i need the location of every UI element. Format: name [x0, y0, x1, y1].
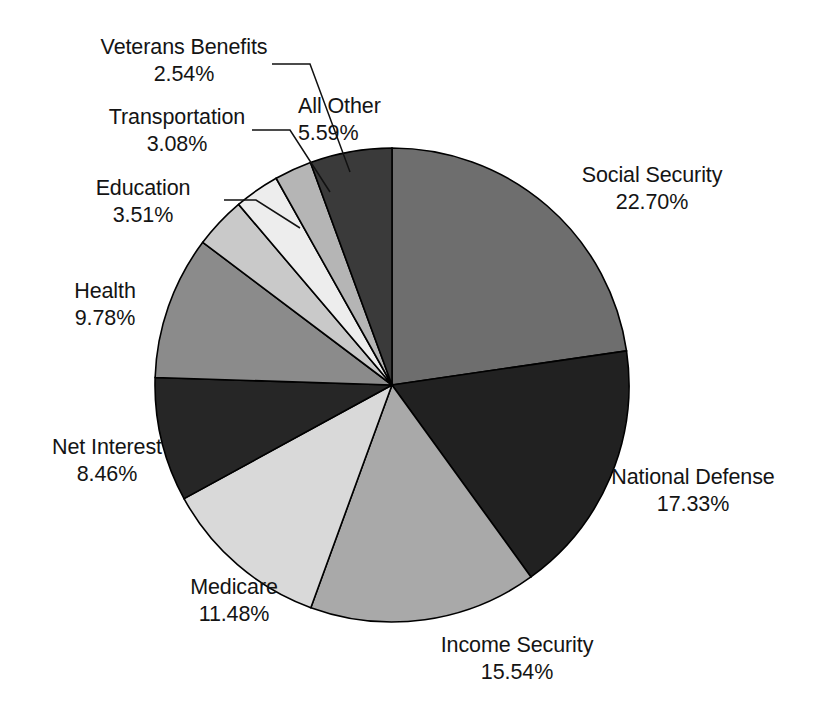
pie-label-percent: 9.78%	[22, 305, 188, 332]
pie-label-social-security: Social Security 22.70%	[540, 162, 764, 216]
pie-label-percent: 2.54%	[84, 61, 284, 88]
pie-label-health: Health 9.78%	[22, 278, 188, 332]
pie-label-name: Net Interest	[16, 434, 198, 461]
pie-label-education: Education 3.51%	[42, 175, 244, 229]
pie-label-percent: 15.54%	[402, 659, 632, 686]
pie-label-veterans-benefits: Veterans Benefits 2.54%	[84, 34, 284, 88]
pie-label-national-defense: National Defense 17.33%	[578, 464, 808, 518]
pie-label-name: Education	[42, 175, 244, 202]
pie-label-name: Transportation	[70, 104, 284, 131]
pie-label-medicare: Medicare 11.48%	[148, 574, 320, 628]
pie-label-percent: 17.33%	[578, 491, 808, 518]
pie-label-net-interest: Net Interest 8.46%	[16, 434, 198, 488]
pie-label-name: Veterans Benefits	[84, 34, 284, 61]
pie-label-percent: 11.48%	[148, 601, 320, 628]
pie-label-name: Health	[22, 278, 188, 305]
pie-label-percent: 22.70%	[540, 189, 764, 216]
pie-label-income-security: Income Security 15.54%	[402, 632, 632, 686]
pie-label-name: Medicare	[148, 574, 320, 601]
pie-chart-figure: Federal Budget Outlays by Function Veter…	[0, 0, 820, 724]
pie-label-percent: 5.59%	[298, 120, 454, 147]
pie-label-name: All Other	[298, 93, 454, 120]
pie-label-percent: 3.08%	[70, 131, 284, 158]
pie-label-name: National Defense	[578, 464, 808, 491]
pie-label-transportation: Transportation 3.08%	[70, 104, 284, 158]
pie-label-name: Income Security	[402, 632, 632, 659]
pie-label-all-other: All Other 5.59%	[298, 93, 454, 147]
pie-label-percent: 8.46%	[16, 461, 198, 488]
pie-label-percent: 3.51%	[42, 202, 244, 229]
pie-label-name: Social Security	[540, 162, 764, 189]
